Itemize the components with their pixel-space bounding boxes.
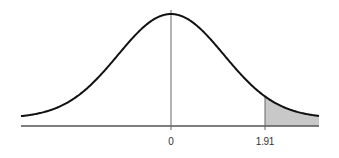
normal-curve [21,14,319,116]
normal-curve-chart [0,0,339,158]
tick-label-zero: 0 [168,136,173,147]
tick-label-critical: 1.91 [256,136,274,147]
